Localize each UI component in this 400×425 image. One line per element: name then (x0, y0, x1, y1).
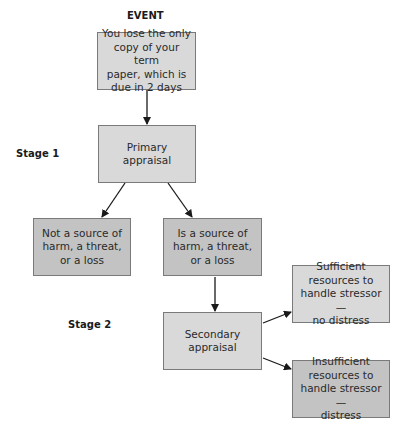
arrow-secondary-to-insufficient (263, 358, 291, 369)
arrow-primary-to-is-source (168, 183, 192, 217)
connector-arrows (0, 0, 400, 425)
arrow-secondary-to-sufficient (263, 312, 291, 323)
arrow-primary-to-not-source (102, 183, 125, 217)
